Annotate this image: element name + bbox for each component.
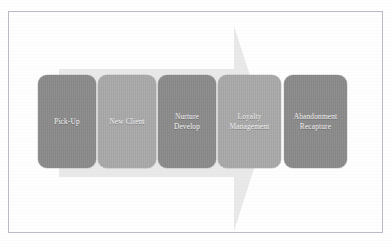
stage-box-new-client[interactable]: New Client: [98, 75, 156, 168]
stage-box-abandonment-recapture[interactable]: Abandonment Recapture: [284, 75, 347, 168]
stage-label: Loyalty Management: [229, 112, 269, 132]
stage-box-pick-up[interactable]: Pick-Up: [38, 75, 96, 168]
stage-label: New Client: [109, 117, 144, 127]
stage-label: Nurture Develop: [174, 112, 200, 132]
stage-box-nurture-develop[interactable]: Nurture Develop: [158, 75, 216, 168]
stage-label: Pick-Up: [54, 117, 80, 127]
slide-canvas: Pick-Up New Client Nurture Develop Loyal…: [0, 0, 392, 247]
stage-label: Abandonment Recapture: [294, 112, 338, 132]
stage-box-loyalty-management[interactable]: Loyalty Management: [218, 75, 281, 168]
